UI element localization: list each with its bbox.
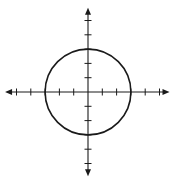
coordinate-plane [0,0,176,183]
y-axis-down-arrow-icon [85,169,91,176]
x-axis-right-arrow-icon [163,89,170,95]
coordinate-plane-figure [0,0,176,183]
x-axis-left-arrow-icon [5,89,12,95]
y-axis-up-arrow-icon [85,8,91,15]
